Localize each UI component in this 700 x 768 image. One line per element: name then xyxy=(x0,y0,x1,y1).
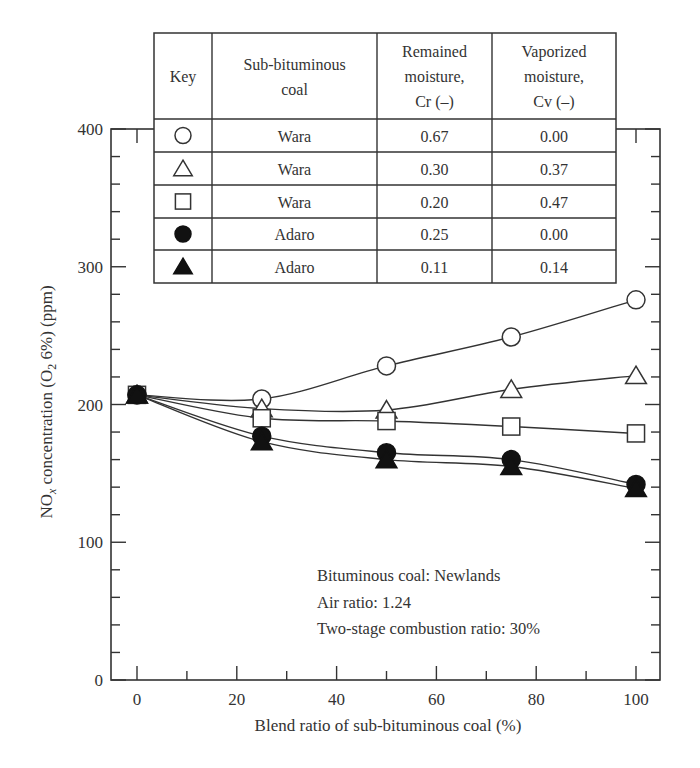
square-open-marker-icon xyxy=(378,412,395,429)
circle-open-marker-icon xyxy=(378,357,396,375)
y-axis-title: NOx concentration (O2 6%) (ppm) xyxy=(37,285,59,518)
y-axis-title-pre: NO xyxy=(37,494,56,519)
series-markers xyxy=(127,291,647,497)
square-open-marker-icon xyxy=(503,418,520,435)
legend-header-key: Key xyxy=(170,68,197,86)
legend-header-cr: Remained xyxy=(402,43,467,60)
legend-table: KeySub-bituminouscoalRemainedmoisture,Cr… xyxy=(154,33,616,283)
legend-header-coal: Sub-bituminous xyxy=(243,56,345,73)
legend-cell-coal: Wara xyxy=(278,194,311,211)
x-tick-label: 100 xyxy=(623,690,649,709)
circle-open-marker-icon xyxy=(627,291,645,309)
legend-cell-coal: Adaro xyxy=(275,226,315,243)
legend-cell-cv: 0.37 xyxy=(540,161,568,178)
legend-cell-cr: 0.30 xyxy=(421,161,449,178)
legend-cell-cr: 0.25 xyxy=(421,226,449,243)
y-axis-title-mid: concentration (O xyxy=(37,370,56,489)
y-tick-label: 100 xyxy=(78,533,104,552)
y-tick-label: 300 xyxy=(78,258,104,277)
legend-header-cv: Vaporized xyxy=(522,43,587,61)
circle-open-marker-icon xyxy=(175,128,191,144)
triangle-open-marker-icon xyxy=(626,366,647,383)
legend-header-cr: moisture, xyxy=(405,68,465,85)
legend-header-cr: Cr (–) xyxy=(415,93,454,111)
circle-open-marker-icon xyxy=(502,328,520,346)
x-tick-label: 40 xyxy=(328,690,345,709)
series-line-circle-open xyxy=(137,300,636,401)
y-tick-label: 0 xyxy=(95,671,104,690)
legend-header-cv: moisture, xyxy=(524,68,584,85)
square-open-marker-icon xyxy=(627,425,644,442)
x-tick-label: 80 xyxy=(528,690,545,709)
circle-filled-marker-icon xyxy=(175,226,191,242)
annotation-air-ratio: Air ratio: 1.24 xyxy=(317,593,411,612)
x-tick-label: 60 xyxy=(428,690,445,709)
y-tick-label: 200 xyxy=(78,396,104,415)
x-axis-title: Blend ratio of sub-bituminous coal (%) xyxy=(255,716,522,735)
square-open-marker-icon xyxy=(175,194,190,209)
annotation-block: Bituminous coal: Newlands Air ratio: 1.2… xyxy=(317,566,540,638)
legend-cell-coal: Wara xyxy=(278,128,311,145)
legend-cell-cv: 0.00 xyxy=(540,128,568,145)
y-axis-title-post: 6%) (ppm) xyxy=(37,285,56,363)
legend-cell-coal: Wara xyxy=(278,161,311,178)
legend-header-coal: coal xyxy=(281,81,308,98)
x-tick-label: 0 xyxy=(133,690,142,709)
x-tick-label: 20 xyxy=(228,690,245,709)
legend-cell-cv: 0.47 xyxy=(540,194,568,211)
y-tick-label: 400 xyxy=(78,120,104,139)
legend-header-cv: Cv (–) xyxy=(533,93,574,111)
nox-chart: 0100200300400020406080100 KeySub-bitumin… xyxy=(0,0,700,768)
legend-cell-cr: 0.67 xyxy=(421,128,449,145)
legend-cell-cr: 0.11 xyxy=(421,259,448,276)
square-open-marker-icon xyxy=(253,410,270,427)
legend-cell-coal: Adaro xyxy=(275,259,315,276)
legend-cell-cv: 0.14 xyxy=(540,259,568,276)
legend-cell-cv: 0.00 xyxy=(540,226,568,243)
legend-cell-cr: 0.20 xyxy=(421,194,449,211)
annotation-two-stage-ratio: Two-stage combustion ratio: 30% xyxy=(317,619,540,638)
annotation-bituminous-coal: Bituminous coal: Newlands xyxy=(317,566,500,585)
